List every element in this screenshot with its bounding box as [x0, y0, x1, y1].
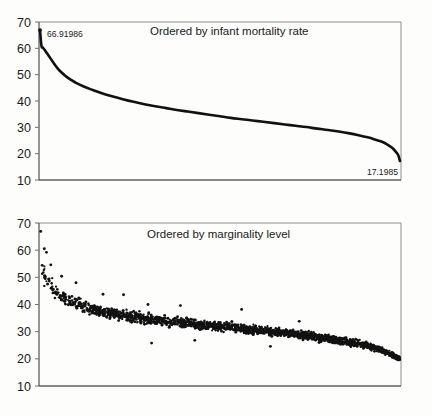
y-tick-group: [35, 22, 39, 180]
scatter-point: [58, 296, 60, 298]
scatter-point: [389, 353, 392, 356]
scatter-point: [163, 320, 166, 323]
scatter-point: [186, 321, 189, 324]
series-curve-infant-mortality: [40, 30, 400, 161]
scatter-point: [347, 341, 350, 344]
scatter-point: [143, 323, 146, 326]
scatter-point: [242, 328, 245, 331]
scatter-point: [328, 337, 331, 340]
scatter-point: [44, 277, 47, 280]
scatter-point: [183, 326, 186, 329]
scatter-point: [388, 350, 390, 352]
y-tick-label: 30: [17, 325, 31, 339]
scatter-point: [116, 310, 119, 313]
scatter-point-outlier: [150, 342, 153, 345]
scatter-point: [356, 345, 359, 348]
scatter-point: [330, 339, 333, 342]
scatter-point: [294, 334, 297, 337]
scatter-point: [179, 320, 182, 323]
y-tick-label: 20: [17, 352, 31, 366]
scatter-point: [259, 326, 261, 328]
scatter-point: [57, 292, 59, 294]
scatter-point: [311, 336, 313, 338]
scatter-point: [78, 297, 81, 300]
scatter-point-outlier: [269, 345, 272, 348]
scatter-point: [120, 315, 122, 317]
y-tick-label-group: 70605040302010: [17, 217, 31, 394]
scatter-point: [92, 308, 95, 311]
scatter-point: [62, 300, 65, 303]
scatter-point: [245, 330, 247, 332]
scatter-point: [256, 328, 259, 331]
scatter-point: [349, 340, 352, 343]
panel-title-bottom: Ordered by marginality level: [147, 228, 290, 240]
scatter-point: [167, 321, 169, 323]
scatter-point: [261, 331, 264, 334]
scatter-point: [325, 338, 328, 341]
scatter-point: [81, 306, 84, 309]
scatter-point-outlier: [75, 281, 78, 284]
scatter-point: [269, 328, 271, 330]
scatter-point: [96, 306, 99, 309]
scatter-point: [241, 325, 243, 327]
scatter-point: [69, 297, 72, 300]
scatter-point: [188, 322, 191, 325]
scatter-point: [357, 341, 360, 344]
scatter-point: [200, 325, 202, 327]
line-chart-svg: 70605040302010 Ordered by infant mortali…: [0, 0, 432, 200]
scatter-point: [268, 333, 271, 336]
scatter-point: [197, 324, 200, 327]
scatter-point: [103, 314, 106, 317]
scatter-point: [147, 315, 150, 318]
scatter-point: [360, 343, 362, 345]
scatter-point: [234, 331, 237, 334]
scatter-point: [247, 328, 249, 330]
scatter-point: [43, 274, 46, 277]
min-value-label: 17.1985: [367, 167, 398, 177]
scatter-point: [289, 335, 291, 337]
scatter-point: [254, 325, 257, 328]
scatter-point-outlier: [147, 303, 150, 306]
scatter-point: [152, 318, 155, 321]
scatter-point-outlier: [49, 263, 52, 266]
scatter-point: [273, 334, 275, 336]
scatter-point: [220, 329, 223, 332]
scatter-point: [158, 321, 160, 323]
scatter-point: [239, 327, 242, 330]
scatter-point: [392, 353, 394, 355]
scatter-point: [249, 331, 252, 334]
scatter-point: [381, 350, 384, 353]
scatter-point: [206, 325, 208, 327]
scatter-point: [46, 283, 49, 286]
scatter-point: [43, 269, 45, 271]
scatter-point: [279, 334, 282, 337]
scatter-point: [144, 317, 146, 319]
scatter-point: [349, 344, 351, 346]
scatter-point: [225, 321, 228, 324]
scatter-point: [234, 327, 236, 329]
max-value-marker: [38, 28, 42, 32]
scatter-point: [193, 321, 195, 323]
scatter-point: [352, 341, 354, 343]
scatter-point: [218, 325, 220, 327]
scatter-point: [346, 339, 348, 341]
scatter-point: [131, 316, 133, 318]
scatter-point: [214, 326, 217, 329]
scatter-point: [122, 312, 124, 314]
scatter-point: [301, 338, 304, 341]
scatter-point: [285, 334, 288, 337]
scatter-point: [80, 304, 83, 307]
scatter-point: [175, 317, 178, 320]
scatter-point: [223, 327, 225, 329]
scatter-point: [157, 316, 159, 318]
scatter-point: [94, 312, 96, 314]
scatter-point: [306, 336, 308, 338]
scatter-point: [52, 288, 54, 290]
scatter-point: [302, 331, 304, 333]
scatter-point: [385, 349, 387, 351]
chart-panel-infant-mortality: 70605040302010 Ordered by infant mortali…: [0, 0, 432, 200]
scatter-point: [74, 302, 76, 304]
scatter-point: [87, 302, 90, 305]
scatter-point: [136, 315, 138, 317]
y-tick-label: 50: [17, 68, 31, 82]
